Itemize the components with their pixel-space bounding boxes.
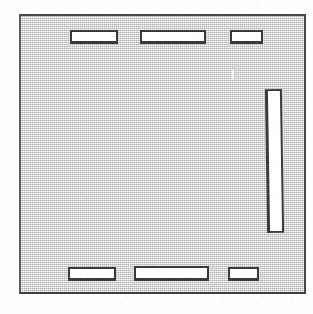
slot-right-tall	[265, 89, 284, 233]
scan-artifact-mark	[232, 70, 234, 79]
panel-body	[19, 14, 306, 294]
slot-bottom-right	[228, 267, 259, 281]
slot-bottom-left	[68, 267, 116, 281]
figure-canvas	[0, 0, 313, 314]
slot-bottom-center	[134, 266, 209, 281]
slot-top-right	[230, 30, 263, 44]
slot-top-center	[140, 30, 206, 44]
slot-top-left	[70, 30, 118, 44]
